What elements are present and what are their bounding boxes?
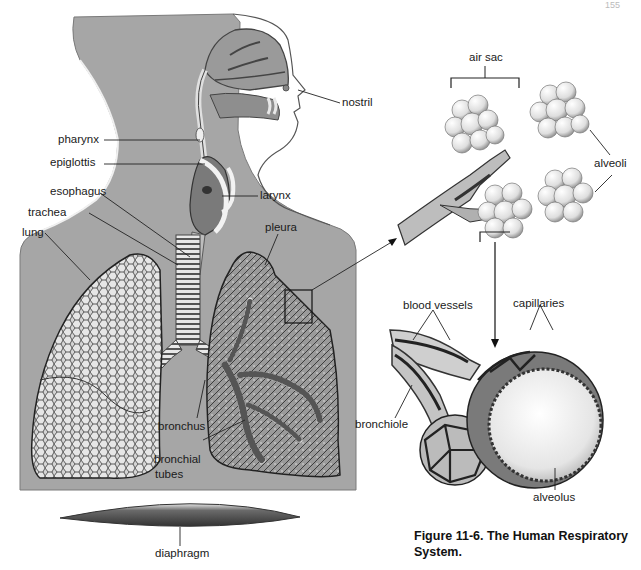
trachea [176,235,200,345]
respiratory-system-figure: 155 [0,0,641,570]
label-nostril: nostril [342,97,373,109]
diagram-artwork [0,0,641,570]
label-alveolus: alveolus [533,492,575,504]
label-alveoli: alveoli [594,158,627,170]
caption-line-1: Figure 11-6. The Human Respiratory [414,528,634,544]
label-blood-vessels: blood vessels [403,300,473,312]
label-pharynx: pharynx [58,134,99,146]
label-bronchiole: bronchiole [355,419,408,431]
label-bronchial-tubes-2: tubes [155,469,183,481]
label-capillaries: capillaries [513,298,564,310]
label-bronchial-tubes-1: bronchial [154,454,201,466]
label-trachea: trachea [28,207,66,219]
diaphragm [60,504,300,527]
caption-line-2: System. [414,544,634,560]
label-diaphragm: diaphragm [155,548,209,560]
arrow-head-1 [388,238,397,246]
label-epiglottis: epiglottis [50,157,95,169]
figure-caption: Figure 11-6. The Human Respiratory Syste… [414,528,634,561]
label-air-sac: air sac [469,52,503,64]
label-lung: lung [22,227,44,239]
label-esophagus: esophagus [50,186,106,198]
label-bronchus: bronchus [158,421,205,433]
label-pleura: pleura [265,222,297,234]
alveolus-detail [390,305,603,490]
label-larynx: larynx [260,190,291,202]
